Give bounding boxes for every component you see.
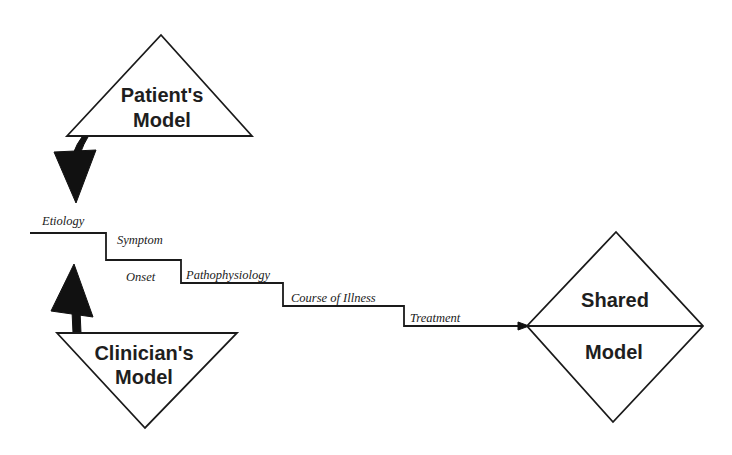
step-label-onset: Onset (126, 270, 156, 284)
step-label-course-of-illness: Course of Illness (291, 291, 376, 305)
shared-model-node: Shared Model (527, 232, 703, 422)
patient-model-node: Patient's Model (67, 35, 252, 136)
up-arrow-icon (51, 264, 93, 333)
clinician-model-node: Clinician's Model (57, 333, 237, 428)
shared-model-diamond (527, 232, 703, 422)
patient-model-label-line1: Patient's (121, 84, 204, 106)
staircase: Etiology Symptom Onset Pathophysiology C… (30, 214, 529, 330)
shared-model-label-line2: Model (585, 341, 643, 363)
clinician-model-label-line2: Model (115, 366, 173, 388)
shared-model-label-line1: Shared (581, 289, 649, 311)
clinician-model-label-line1: Clinician's (94, 342, 193, 364)
down-arrow-icon (54, 137, 96, 203)
shared-model-diagram: Patient's Model Etiology Symptom Onset P… (0, 0, 732, 455)
patient-model-label-line2: Model (133, 109, 191, 131)
step-label-pathophysiology: Pathophysiology (185, 268, 270, 282)
step-label-treatment: Treatment (410, 311, 461, 325)
step-label-symptom: Symptom (117, 233, 163, 247)
step-label-etiology: Etiology (41, 214, 85, 228)
